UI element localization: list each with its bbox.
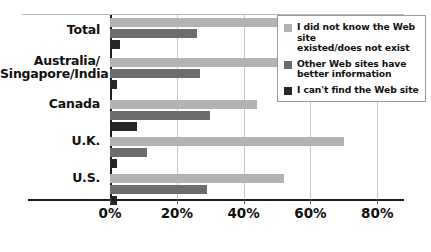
bar	[110, 58, 287, 67]
bar-group	[110, 137, 404, 170]
legend-label: Other Web sites have better information	[297, 59, 406, 80]
bar	[110, 148, 147, 157]
category-axis-line	[28, 199, 404, 201]
legend-item: Other Web sites have better information	[284, 59, 420, 80]
category-label-line: Singapore/India	[0, 67, 100, 80]
bar	[110, 29, 197, 38]
legend-label-line: I did not know the Web site	[297, 21, 415, 43]
bar	[110, 174, 284, 183]
category-label-australia-singapore-india: Australia/ Singapore/India	[0, 54, 100, 80]
bar-chart: Total Australia/ Singapore/India Canada …	[0, 0, 431, 252]
bar	[110, 69, 200, 78]
bar	[110, 122, 137, 131]
legend-swatch-icon	[284, 87, 292, 95]
bar	[110, 159, 117, 168]
value-axis-tick-label: 80%	[361, 205, 393, 221]
tick-mark	[244, 199, 245, 204]
legend-label: I can't find the Web site	[297, 85, 419, 96]
legend-item: I did not know the Web site existed/does…	[284, 22, 420, 54]
value-axis-tick-labels: 0%20%40%60%80%	[110, 205, 404, 229]
legend-label-line: Other Web sites have	[297, 58, 406, 69]
category-label-uk: U.K.	[0, 134, 100, 147]
value-axis-tick-label: 0%	[99, 205, 122, 221]
value-axis-tick-label: 20%	[161, 205, 193, 221]
category-label-line: Total	[67, 22, 100, 37]
value-axis-tick-label: 60%	[294, 205, 326, 221]
legend-label-line: better information	[297, 68, 391, 79]
bar	[110, 80, 117, 89]
bar	[110, 18, 294, 27]
category-axis-labels: Total Australia/ Singapore/India Canada …	[0, 14, 104, 199]
category-label-canada: Canada	[0, 97, 100, 110]
legend-label-line: existed/does not exist	[297, 42, 410, 53]
tick-mark	[377, 199, 378, 204]
tick-mark	[177, 199, 178, 204]
category-label-total: Total	[0, 23, 100, 36]
tick-mark	[310, 199, 311, 204]
bar-group	[110, 100, 404, 133]
category-label-line: U.K.	[71, 133, 100, 148]
value-axis-tick-label: 40%	[227, 205, 259, 221]
category-label-us: U.S.	[0, 171, 100, 184]
tick-mark	[110, 199, 111, 204]
bar	[110, 111, 210, 120]
legend-item: I can't find the Web site	[284, 85, 420, 96]
legend-label-line: I can't find the Web site	[297, 84, 419, 95]
legend: I did not know the Web site existed/does…	[277, 15, 426, 102]
bar	[110, 137, 344, 146]
category-label-line: U.S.	[72, 170, 100, 185]
bar-group	[110, 174, 404, 207]
legend-swatch-icon	[284, 61, 292, 69]
legend-label: I did not know the Web site existed/does…	[297, 22, 420, 54]
bar	[110, 40, 120, 49]
legend-swatch-icon	[284, 24, 292, 32]
bar	[110, 185, 207, 194]
category-label-line: Canada	[49, 96, 100, 111]
bar	[110, 100, 257, 109]
